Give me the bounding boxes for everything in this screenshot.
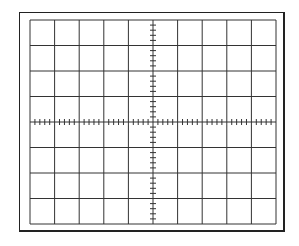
oscilloscope-graticule (0, 0, 299, 246)
